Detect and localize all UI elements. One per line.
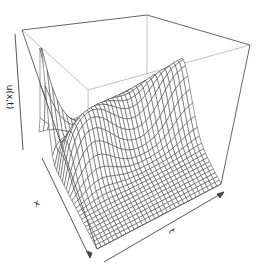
u-axis-line [15, 34, 23, 150]
t-axis-arrow-icon [217, 192, 224, 198]
u-axis-label: u(x,t) [5, 85, 15, 109]
x-axis-arrow-icon [87, 251, 92, 258]
surface-plot [0, 0, 259, 270]
